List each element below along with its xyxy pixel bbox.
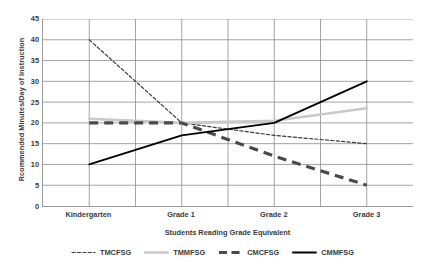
line-chart: Rcommended Minutes/Day of Instruction 05…	[0, 0, 425, 273]
legend-entry-cmcfsg[interactable]: CMCFSG	[218, 248, 279, 257]
series-line-cmcfsg	[89, 123, 367, 185]
chart-legend: TMCFSGTMMFSGCMCFSGCMMFSG	[0, 248, 425, 257]
y-axis-tick-label: 25	[17, 99, 39, 106]
y-axis-tick-label: 30	[17, 78, 39, 85]
legend-label: TMCFSG	[100, 248, 131, 257]
y-axis-tick-label: 0	[17, 203, 39, 210]
legend-entry-cmmfsg[interactable]: CMMFSG	[292, 248, 354, 257]
legend-swatch-cmmfsg-icon	[292, 248, 317, 257]
plot-area	[42, 19, 413, 207]
y-axis-tick-label: 20	[17, 120, 39, 127]
x-axis-tick-labels: KindergartenGrade 1Grade 2Grade 3	[42, 210, 413, 224]
y-axis-tick-label: 45	[17, 15, 39, 22]
y-axis-tick-label: 5	[17, 182, 39, 189]
x-axis-title: Students Reading Grade Equivalent	[42, 228, 413, 237]
legend-entry-tmcfsg[interactable]: TMCFSG	[71, 248, 131, 257]
legend-entry-tmmfsg[interactable]: TMMFSG	[144, 248, 205, 257]
legend-swatch-tmmfsg-icon	[144, 248, 169, 257]
legend-label: CMMFSG	[321, 248, 354, 257]
y-axis-tick-label: 10	[17, 162, 39, 169]
x-axis-tick-label: Grade 3	[322, 210, 412, 219]
x-axis-tick-label: Grade 1	[136, 210, 226, 219]
x-axis-tick-label: Grade 2	[229, 210, 319, 219]
legend-swatch-cmcfsg-icon	[218, 248, 243, 257]
legend-label: TMMFSG	[173, 248, 205, 257]
y-axis-tick-label: 15	[17, 141, 39, 148]
y-axis-tick-label: 35	[17, 57, 39, 64]
data-series-lines	[43, 19, 413, 206]
x-axis-tick-label: Kindergarten	[43, 210, 133, 219]
series-line-tmcfsg	[89, 40, 367, 144]
legend-swatch-tmcfsg-icon	[71, 248, 96, 257]
series-line-tmmfsg	[89, 108, 367, 123]
y-axis-tick-label: 40	[17, 36, 39, 43]
y-axis-tick-labels: 051015202530354045	[17, 19, 39, 207]
legend-label: CMCFSG	[247, 248, 279, 257]
